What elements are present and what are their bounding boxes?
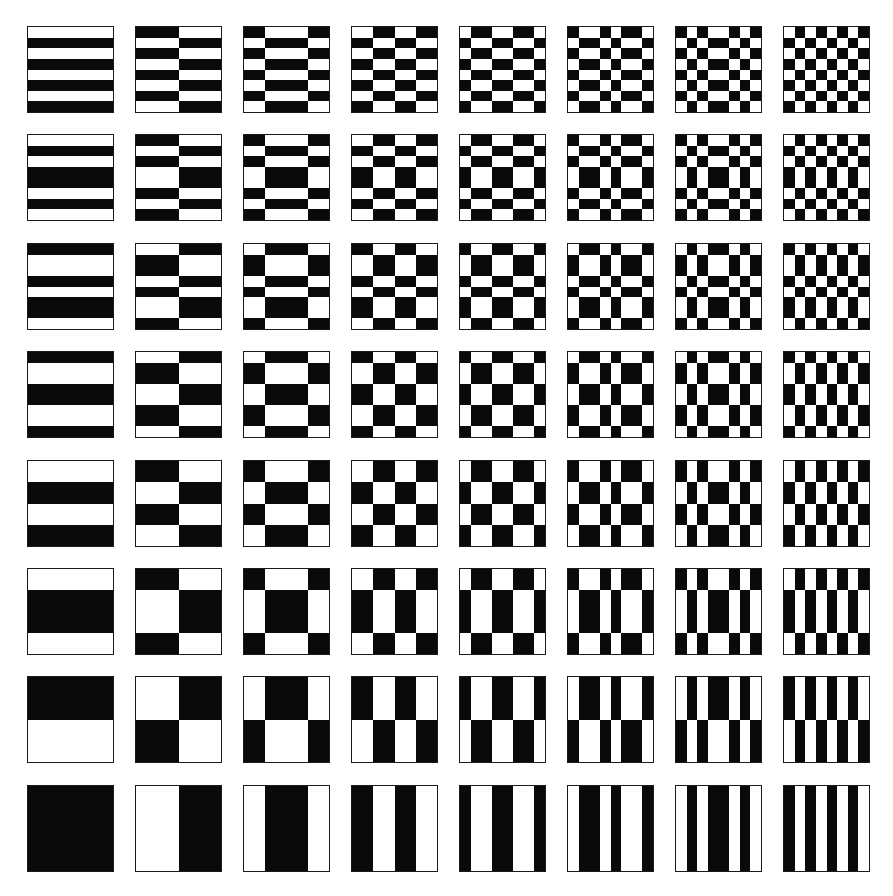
black-cell [805, 395, 816, 406]
black-cell [687, 786, 698, 797]
black-cell [92, 797, 103, 808]
white-cell [373, 395, 384, 406]
black-cell [621, 91, 632, 102]
black-cell [60, 677, 71, 688]
white-cell [621, 850, 632, 861]
white-cell [255, 178, 266, 189]
black-cell [28, 807, 39, 818]
white-cell [579, 91, 590, 102]
white-cell [676, 59, 687, 70]
white-cell [136, 493, 147, 504]
black-cell [255, 156, 266, 167]
white-cell [92, 472, 103, 483]
black-cell [318, 416, 329, 427]
white-cell [157, 535, 168, 546]
white-cell [611, 504, 622, 515]
black-cell [244, 405, 255, 416]
white-cell [276, 135, 287, 146]
white-cell [481, 297, 492, 308]
white-cell [492, 70, 503, 81]
black-cell [697, 569, 708, 580]
white-cell [503, 720, 514, 731]
black-cell [611, 839, 622, 850]
black-cell [276, 829, 287, 840]
black-cell [503, 244, 514, 255]
white-cell [719, 405, 730, 416]
black-cell [384, 643, 395, 654]
white-cell [795, 395, 806, 406]
black-cell [481, 416, 492, 427]
black-cell [136, 287, 147, 298]
black-cell [49, 622, 60, 633]
white-cell [147, 199, 158, 210]
black-cell [827, 384, 838, 395]
white-cell [308, 167, 319, 178]
white-cell [513, 698, 524, 709]
black-cell [49, 38, 60, 49]
white-cell [805, 209, 816, 220]
basis-tile-r3-c4 [459, 351, 546, 438]
black-cell [600, 741, 611, 752]
black-cell [534, 101, 545, 112]
white-cell [632, 308, 643, 319]
black-cell [81, 709, 92, 720]
white-cell [805, 70, 816, 81]
black-cell [579, 786, 590, 797]
white-cell [81, 633, 92, 644]
white-cell [276, 27, 287, 38]
black-cell [244, 188, 255, 199]
black-cell [471, 255, 482, 266]
black-cell [719, 297, 730, 308]
black-cell [740, 146, 751, 157]
black-cell [416, 504, 427, 515]
black-cell [60, 688, 71, 699]
white-cell [632, 482, 643, 493]
white-cell [308, 688, 319, 699]
black-cell [136, 255, 147, 266]
black-cell [244, 287, 255, 298]
white-cell [642, 363, 653, 374]
white-cell [784, 741, 795, 752]
white-cell [481, 612, 492, 623]
black-cell [287, 395, 298, 406]
black-cell [687, 80, 698, 91]
white-cell [49, 633, 60, 644]
white-cell [49, 569, 60, 580]
black-cell [168, 730, 179, 741]
black-cell [740, 352, 751, 363]
white-cell [697, 297, 708, 308]
white-cell [740, 472, 751, 483]
black-cell [147, 363, 158, 374]
white-cell [265, 363, 276, 374]
white-cell [568, 590, 579, 601]
white-cell [729, 612, 740, 623]
black-cell [179, 535, 190, 546]
white-cell [524, 677, 535, 688]
black-cell [600, 569, 611, 580]
white-cell [287, 472, 298, 483]
white-cell [308, 525, 319, 536]
white-cell [318, 493, 329, 504]
black-cell [858, 318, 869, 329]
white-cell [147, 786, 158, 797]
black-cell [676, 255, 687, 266]
black-cell [568, 633, 579, 644]
white-cell [81, 720, 92, 731]
black-cell [471, 569, 482, 580]
white-cell [373, 698, 384, 709]
black-cell [750, 188, 761, 199]
black-cell [308, 265, 319, 276]
white-cell [352, 643, 363, 654]
white-cell [729, 352, 740, 363]
white-cell [460, 751, 471, 762]
white-cell [816, 797, 827, 808]
white-cell [697, 818, 708, 829]
black-cell [795, 209, 806, 220]
white-cell [568, 698, 579, 709]
white-cell [147, 384, 158, 395]
white-cell [697, 80, 708, 91]
black-cell [276, 199, 287, 210]
black-cell [210, 146, 221, 157]
black-cell [729, 472, 740, 483]
black-cell [200, 622, 211, 633]
